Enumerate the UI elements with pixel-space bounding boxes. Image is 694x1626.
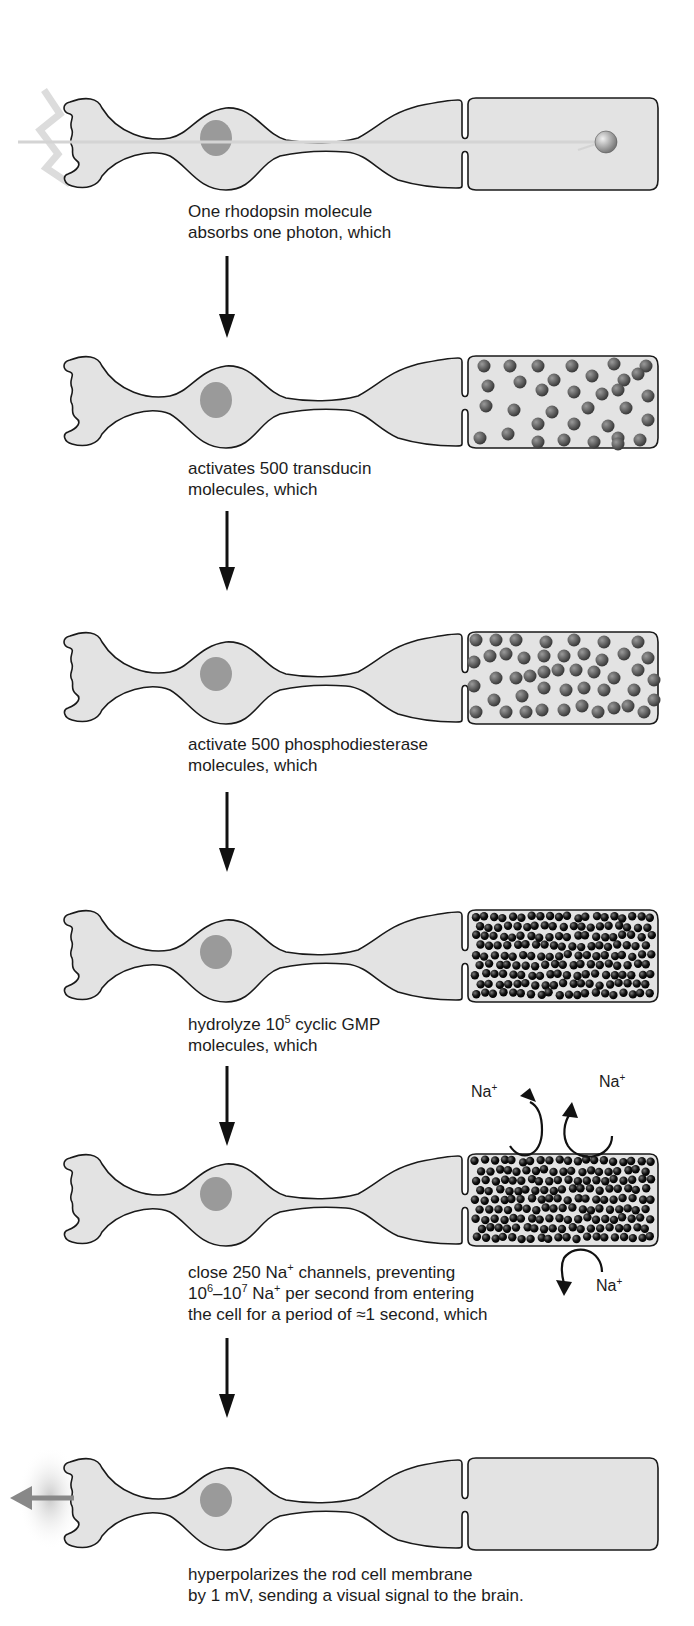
stage-6-hyperpolarization: hyperpolarizes the rod cell membrane by … — [0, 1450, 694, 1626]
nucleus-icon — [200, 1177, 232, 1211]
stage-2-transducin: activates 500 transducin molecules, whic… — [0, 348, 694, 508]
stage-1-rhodopsin: One rhodopsin molecule absorbs one photo… — [0, 84, 694, 244]
flow-arrow-down-icon — [217, 1066, 237, 1146]
stage-6-caption: hyperpolarizes the rod cell membrane by … — [188, 1564, 524, 1606]
nucleus-icon — [200, 1483, 232, 1517]
nucleus-icon — [200, 382, 232, 418]
stage-2-caption: activates 500 transducin molecules, whic… — [188, 458, 371, 500]
stage-3-caption: activate 500 phosphodiesterase molecules… — [188, 734, 428, 776]
stage-4-caption: hydrolyze 105 cyclic GMP molecules, whic… — [188, 1014, 380, 1056]
stage-5-sodium-channels: close 250 Na+ channels, preventing 106–1… — [0, 1146, 694, 1336]
curved-arrow-up-icon — [564, 1114, 612, 1157]
sodium-flux-arrow-bottom — [550, 1244, 630, 1304]
rod-cell-diagram — [0, 348, 694, 458]
sodium-ion-label: Na+ — [599, 1073, 625, 1091]
sodium-ion-label: Na+ — [471, 1083, 497, 1101]
sodium-ion-label: Na+ — [596, 1277, 622, 1295]
stage-3-phosphodiesterase: activate 500 phosphodiesterase molecules… — [0, 624, 694, 784]
rod-cell-diagram — [0, 1450, 694, 1560]
rod-cell-diagram — [0, 902, 694, 1012]
rhodopsin-molecule-icon — [595, 131, 617, 153]
flow-arrow-down-icon — [217, 792, 237, 872]
flow-arrow-down-icon — [217, 511, 237, 591]
flow-arrow-down-icon — [217, 256, 237, 338]
stage-1-caption: One rhodopsin molecule absorbs one photo… — [188, 201, 391, 243]
nucleus-icon — [200, 657, 232, 691]
curved-arrow-up-icon — [510, 1102, 542, 1155]
rod-cell-diagram — [0, 1146, 694, 1256]
rod-cell-diagram — [0, 624, 694, 734]
nucleus-icon — [200, 120, 232, 156]
rod-cell-diagram — [0, 84, 694, 204]
stage-4-cgmp-hydrolysis: hydrolyze 105 cyclic GMP molecules, whic… — [0, 902, 694, 1062]
stage-5-caption: close 250 Na+ channels, preventing 106–1… — [188, 1262, 487, 1325]
flow-arrow-down-icon — [217, 1338, 237, 1418]
nucleus-icon — [200, 935, 232, 969]
